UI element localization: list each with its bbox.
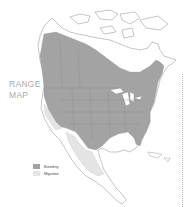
migration-swatch <box>33 171 40 176</box>
legend-item-migration: Migration <box>33 170 59 177</box>
legend-item-breeding: Breeding <box>33 163 59 170</box>
dotted-divider <box>182 74 183 207</box>
north-america-map <box>0 0 185 207</box>
legend-label: Breeding <box>44 165 58 169</box>
arctic-islands <box>70 10 168 38</box>
caribbean-islands <box>148 152 170 162</box>
legend-label: Migration <box>44 172 59 176</box>
breeding-swatch <box>33 164 40 169</box>
map-legend: Breeding Migration <box>33 163 59 177</box>
